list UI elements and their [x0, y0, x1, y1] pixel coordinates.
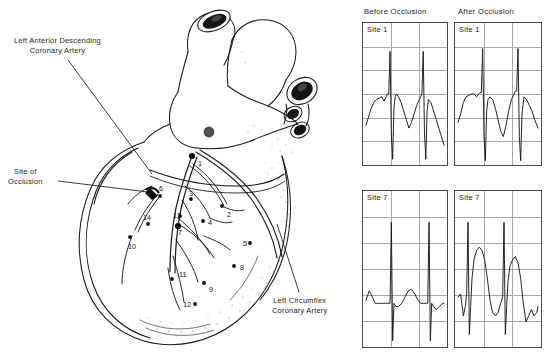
lad-label-line1: Left Anterior Descending: [14, 36, 101, 46]
ecg-waveform-before_site1: [366, 51, 444, 159]
panel-label-before-site1: Site 1: [367, 25, 388, 34]
site-number-4: 4: [208, 219, 212, 227]
ecg-trace-before-site7: [363, 191, 447, 347]
site-number-6: 6: [159, 185, 163, 193]
ecg-panel-after-site1[interactable]: Site 1: [454, 22, 542, 166]
site-marker-dot-4[interactable]: [201, 219, 205, 223]
ecg-waveform-after_site7: [458, 222, 538, 334]
lcx-label-line2: Coronary Artery: [272, 306, 328, 316]
site-marker-dot-6[interactable]: [158, 194, 162, 198]
column-header-after-occlusion: After Occlusion: [458, 7, 514, 16]
left-atrium-outline: [144, 86, 298, 149]
ecg-panel-before-site1[interactable]: Site 1: [362, 22, 448, 166]
site-number-3: 3: [189, 190, 193, 198]
ecg-region: Before Occlusion After Occlusion Site 1 …: [358, 0, 550, 362]
lad-label-line2: Coronary Artery: [14, 46, 101, 56]
lcx-label-line1: Left Circumflex: [272, 296, 328, 306]
occlusion-label-line2: Occlusion: [8, 177, 43, 187]
ventricle-outline: [79, 142, 290, 345]
site-number-14: 14: [143, 214, 151, 222]
panel-label-before-site7: Site 7: [367, 193, 388, 202]
site-number-10: 10: [128, 243, 136, 251]
ecg-panel-before-site7[interactable]: Site 7: [362, 190, 448, 348]
site-number-7: 7: [178, 229, 182, 237]
pulmonary-veins: [281, 72, 322, 141]
site-number-5: 5: [243, 240, 247, 248]
site-marker-dot-9[interactable]: [202, 281, 206, 285]
ecg-waveform-after_site1: [458, 49, 538, 161]
site-marker-dot-2[interactable]: [220, 204, 224, 208]
label-site-of-occlusion: Site of Occlusion: [8, 167, 43, 186]
left-circumflex-artery: [196, 150, 282, 258]
panel-label-after-site1: Site 1: [459, 25, 480, 34]
site-marker-dot-1[interactable]: [189, 153, 195, 159]
ecg-trace-after-site7: [455, 191, 541, 347]
site-number-11: 11: [179, 271, 186, 279]
figure-root: Left Anterior Descending Coronary Artery…: [0, 0, 550, 362]
site-number-2: 2: [227, 211, 231, 219]
ecg-panel-after-site7[interactable]: Site 7: [454, 190, 542, 348]
label-left-anterior-descending: Left Anterior Descending Coronary Artery: [14, 36, 101, 55]
site-number-13: 13: [173, 212, 181, 220]
site-number-1: 1: [198, 160, 202, 168]
column-header-before-occlusion: Before Occlusion: [364, 7, 427, 16]
av-groove: [150, 170, 285, 193]
site-number-8: 8: [240, 264, 244, 272]
ecg-trace-after-site1: [455, 23, 541, 165]
ecg-waveform-before_site7: [366, 222, 444, 341]
site-marker-dot-10[interactable]: [128, 235, 132, 239]
aorta-outline: [178, 6, 235, 92]
site-number-9: 9: [209, 286, 213, 294]
av-node-marker: [204, 127, 215, 138]
site-marker-dot-14[interactable]: [146, 222, 150, 226]
site-marker-dot-12[interactable]: [193, 302, 197, 306]
label-left-circumflex: Left Circumflex Coronary Artery: [272, 296, 328, 315]
leader-lines: [58, 60, 299, 292]
occlusion-site-marker: [145, 188, 159, 200]
ecg-trace-before-site1: [363, 23, 447, 165]
site-number-12: 12: [183, 301, 191, 309]
panel-label-after-site7: Site 7: [459, 193, 480, 202]
leader-line-lad: [68, 60, 152, 174]
site-marker-dot-5[interactable]: [248, 241, 252, 245]
leader-line-occlusion: [58, 181, 148, 192]
site-marker-dot-8[interactable]: [232, 264, 236, 268]
occlusion-label-line1: Site of: [8, 167, 43, 177]
site-marker-dot-11[interactable]: [170, 277, 174, 281]
